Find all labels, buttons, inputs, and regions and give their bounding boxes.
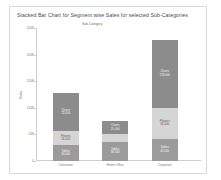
bar-segment-phones[interactable]: Phones 58,000 (152, 108, 178, 139)
y-axis-line (36, 28, 37, 161)
y-tick-mark (34, 161, 36, 162)
y-tick-mark (34, 108, 36, 109)
bar-segment-chairs[interactable]: Chairs 128,000 (152, 40, 178, 108)
screenshot-root: Stacked Bar Chart for Segment wise Sales… (0, 0, 221, 180)
bar-segment-label: Chairs 72,000 (61, 109, 70, 116)
bar-segment-tables[interactable]: Tables 42,000 (152, 139, 178, 161)
bar-segment-label: Chairs 128,000 (159, 70, 169, 77)
bar-segment-label: Tables 36,000 (111, 148, 120, 155)
plot-area: Sales 050K100K150K200K250K Chairs 72,000… (36, 28, 201, 161)
chart-title: Stacked Bar Chart for Segment wise Sales… (17, 12, 207, 19)
bar-segment-tables[interactable]: Tables 30,000 (53, 145, 79, 161)
x-tick-label: Consumer (46, 163, 86, 167)
y-tick-label: 100K (27, 106, 34, 110)
bar-segment-phones[interactable]: Phones 26,000 (53, 131, 79, 145)
bar-segment-label: Tables 30,000 (61, 150, 70, 157)
legend-title: Sub-Category (82, 22, 102, 27)
y-tick-mark (34, 81, 36, 82)
x-tick-label: Corporate (145, 163, 185, 167)
stacked-bar[interactable]: Chairs 25,000Tables 36,000 (102, 121, 128, 161)
bar-segment-phones[interactable] (102, 134, 128, 141)
bar-segment-label: Chairs 25,000 (111, 124, 120, 131)
y-tick-mark (34, 55, 36, 56)
y-tick-label: 150K (27, 79, 34, 83)
y-axis-label: Sales (19, 90, 23, 98)
y-tick-mark (34, 134, 36, 135)
x-tick-label: Home Office (95, 163, 135, 167)
bar-segment-label: Phones 26,000 (61, 135, 71, 142)
stacked-bar[interactable]: Chairs 72,000Phones 26,000Tables 30,000 (53, 93, 79, 161)
y-tick-mark (34, 28, 36, 29)
bar-segment-chairs[interactable]: Chairs 72,000 (53, 93, 79, 131)
bar-segment-chairs[interactable]: Chairs 25,000 (102, 121, 128, 134)
bar-segment-label: Tables 42,000 (160, 146, 169, 153)
y-tick-label: 250K (27, 26, 34, 30)
bar-segment-tables[interactable]: Tables 36,000 (102, 142, 128, 161)
chart-card: Stacked Bar Chart for Segment wise Sales… (9, 6, 207, 174)
stacked-bar[interactable]: Chairs 128,000Phones 58,000Tables 42,000 (152, 40, 178, 161)
bar-segment-label: Phones 58,000 (160, 120, 170, 127)
y-tick-label: 200K (27, 53, 34, 57)
